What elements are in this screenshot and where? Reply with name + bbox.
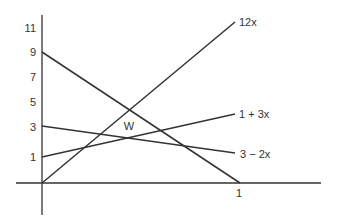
line-9-minus-9x xyxy=(42,52,240,183)
line-12x xyxy=(42,22,235,183)
line-1-plus-3x xyxy=(42,114,235,157)
label-12x: 12x xyxy=(239,16,257,28)
line-3-minus-2x xyxy=(42,126,235,153)
region-w-label: W xyxy=(124,120,135,132)
y-tick-1: 1 xyxy=(30,151,36,163)
y-tick-7: 7 xyxy=(30,71,36,83)
label-1-plus-3x: 1 + 3x xyxy=(239,108,270,120)
y-tick-11: 11 xyxy=(25,22,36,34)
label-3-minus-2x: 3 − 2x xyxy=(240,148,271,160)
y-tick-9: 9 xyxy=(30,46,36,58)
diagram-canvas: 11 9 7 5 3 1 1 12x 1 + 3x 3 − 2x W xyxy=(0,0,337,223)
y-tick-5: 5 xyxy=(30,96,36,108)
y-tick-3: 3 xyxy=(30,121,36,133)
y-axis-tick-labels: 11 9 7 5 3 1 xyxy=(25,22,36,163)
x-tick-1: 1 xyxy=(236,187,242,199)
